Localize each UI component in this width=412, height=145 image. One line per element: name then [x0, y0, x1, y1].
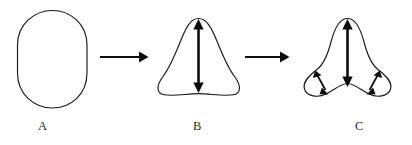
arrow-b-vertical — [193, 19, 203, 93]
shape-oval-a — [18, 11, 88, 109]
arrow-c-left-lobe — [313, 71, 328, 95]
arrow-c-vertical — [342, 19, 352, 87]
morphology-progression-figure: A B C — [0, 0, 412, 145]
arrow-c-right-lobe — [367, 71, 382, 95]
stage-label-a: A — [38, 120, 47, 133]
stage-b-group — [158, 19, 239, 96]
figure-canvas — [0, 0, 412, 145]
arrow-a-to-b — [100, 52, 149, 63]
stage-c-group — [304, 19, 391, 97]
stage-a-group — [18, 11, 88, 109]
stage-label-b: B — [193, 120, 202, 133]
arrow-b-to-c — [245, 52, 290, 63]
stage-label-c: C — [355, 120, 364, 133]
